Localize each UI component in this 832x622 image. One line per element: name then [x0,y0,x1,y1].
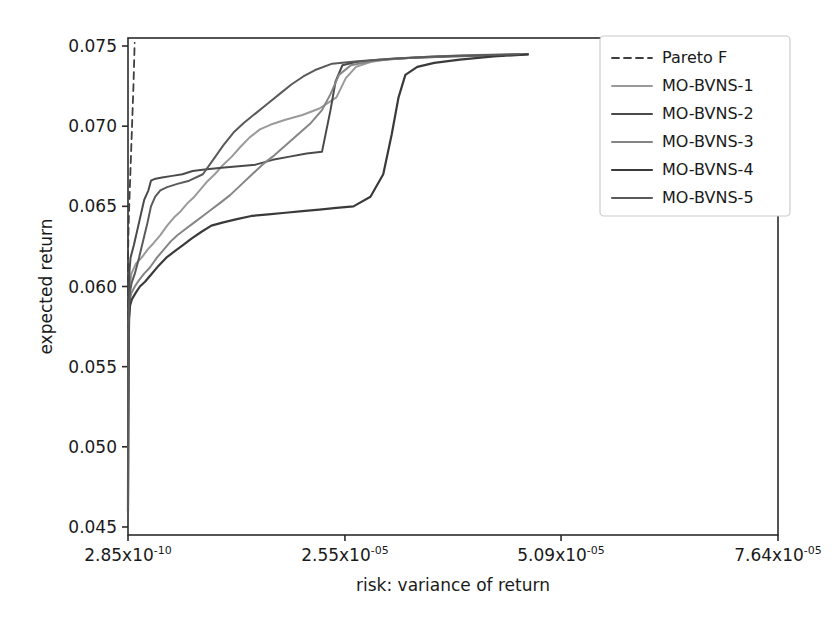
x-axis-title: risk: variance of return [356,575,550,595]
chart-canvas: 0.0450.0500.0550.0600.0650.0700.0752.85x… [0,0,832,622]
chart-figure: 0.0450.0500.0550.0600.0650.0700.0752.85x… [0,0,832,622]
x-tick-label: 5.09x10-05 [517,544,605,565]
legend-label-1: Pareto F [662,48,727,67]
x-tick-label: 7.64x10-05 [734,544,822,565]
y-tick-label: 0.075 [68,36,117,56]
y-tick-label: 0.070 [68,116,117,136]
series-line-mo-bvns-1 [128,54,519,511]
series-line-mo-bvns-5 [128,54,519,511]
legend-label-6: MO-BVNS-5 [662,188,754,207]
legend-label-2: MO-BVNS-1 [662,76,754,95]
y-tick-label: 0.065 [68,196,117,216]
x-tick-label: 2.85x10-10 [84,544,172,565]
y-tick-label: 0.050 [68,437,117,457]
y-tick-label: 0.055 [68,357,117,377]
series-line-mo-bvns-2 [128,54,528,511]
y-axis-title: expected return [36,218,56,354]
legend-label-5: MO-BVNS-4 [662,160,754,179]
x-tick-label: 2.55x10-05 [301,544,389,565]
legend-label-4: MO-BVNS-3 [662,132,754,151]
y-tick-label: 0.060 [68,277,117,297]
legend-label-3: MO-BVNS-2 [662,104,754,123]
y-tick-label: 0.045 [68,517,117,537]
